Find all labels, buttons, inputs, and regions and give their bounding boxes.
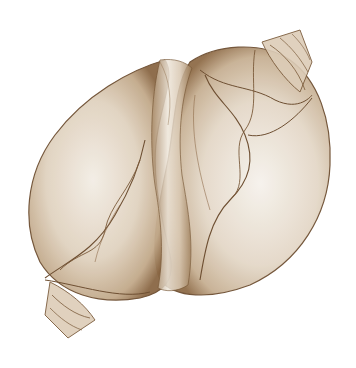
shell-illustration (0, 0, 356, 368)
shell-xray-image (0, 0, 356, 368)
left-shell (29, 60, 171, 338)
